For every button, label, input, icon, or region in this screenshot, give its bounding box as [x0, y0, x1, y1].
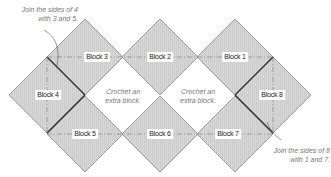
join-note-left: Join the sides of 4 with 3 and 5. — [8, 5, 78, 23]
extra-block-note-right-line1: Crochet an — [178, 87, 218, 96]
extra-block-note-left-line2: extra block. — [103, 96, 143, 105]
block-7-label: Block 7 — [215, 129, 241, 139]
join-note-left-line1: Join the sides of 4 — [8, 5, 78, 14]
block-8-label: Block 8 — [259, 90, 285, 100]
join-note-right-line2: with 1 and 7. — [268, 155, 330, 164]
block-4-label: Block 4 — [35, 90, 61, 100]
block-2-label: Block 2 — [147, 52, 173, 62]
extra-block-note-left-line1: Crochet an — [103, 87, 143, 96]
join-note-right: Join the sides of 8 with 1 and 7. — [268, 146, 330, 164]
extra-block-note-right: Crochet an extra block. — [178, 87, 218, 105]
extra-block-note-right-line2: extra block. — [178, 96, 218, 105]
block-6-label: Block 6 — [147, 129, 173, 139]
extra-block-note-left: Crochet an extra block. — [103, 87, 143, 105]
block-5-label: Block 5 — [72, 129, 98, 139]
join-note-right-line1: Join the sides of 8 — [268, 146, 330, 155]
block-1-label: Block 1 — [222, 52, 248, 62]
block-3-label: Block 3 — [84, 52, 110, 62]
join-note-left-line2: with 3 and 5. — [8, 14, 78, 23]
